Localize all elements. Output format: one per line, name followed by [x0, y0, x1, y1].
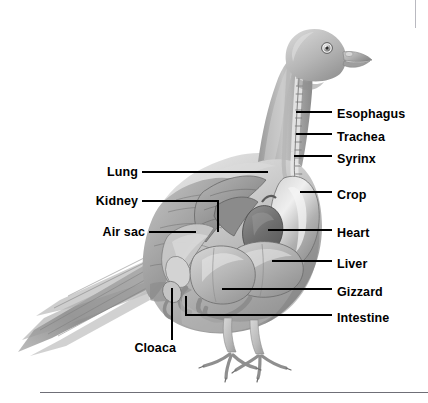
label-trachea: Trachea: [337, 131, 385, 144]
label-air-sac: Air sac: [103, 226, 145, 239]
top-right-mark: [415, 0, 416, 28]
label-syrinx: Syrinx: [337, 153, 376, 166]
label-esophagus: Esophagus: [337, 108, 405, 121]
anatomy-figure: Esophagus Trachea Syrinx Crop Heart Live…: [0, 0, 428, 403]
label-gizzard: Gizzard: [337, 286, 383, 299]
label-heart: Heart: [337, 227, 369, 240]
label-intestine: Intestine: [337, 312, 389, 325]
bottom-divider: [40, 392, 428, 393]
label-kidney: Kidney: [96, 195, 138, 208]
label-lung: Lung: [107, 166, 138, 179]
label-liver: Liver: [337, 258, 367, 271]
gizzard-organ: [190, 246, 255, 304]
head: [286, 29, 372, 90]
label-crop: Crop: [337, 189, 367, 202]
label-cloaca: Cloaca: [134, 342, 176, 355]
